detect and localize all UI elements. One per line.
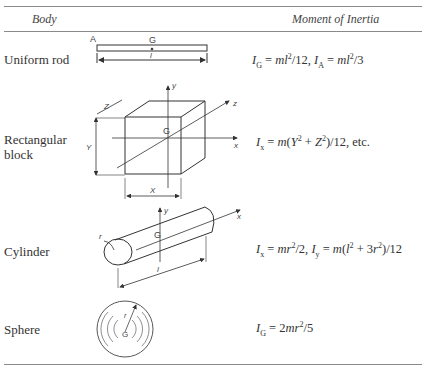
block-dim-x: X	[149, 186, 156, 195]
rod-diagram	[97, 45, 207, 63]
cylinder-label-g: G	[154, 230, 161, 240]
sphere-diagram	[97, 301, 153, 357]
block-dim-z: Z	[103, 102, 110, 111]
cylinder-label-l: l	[157, 265, 159, 274]
sphere-label-g: G	[122, 330, 128, 339]
block-diagram	[96, 86, 237, 199]
cylinder-label-r: r	[99, 232, 102, 241]
cylinder-diagram	[104, 207, 240, 288]
cylinder-axis-x: x	[236, 212, 242, 221]
block-axis-x: x	[233, 141, 239, 150]
diagrams: A G l G y z x Z Y X G y x r l	[0, 0, 426, 373]
sphere-label-r: r	[124, 312, 127, 319]
block-axis-y: y	[171, 81, 177, 90]
block-label-g: G	[163, 126, 170, 136]
block-axis-z: z	[232, 99, 237, 108]
cylinder-axis-y: y	[163, 206, 169, 215]
rod-label-g: G	[149, 35, 156, 45]
rod-label-a: A	[90, 34, 96, 44]
rod-label-l: l	[150, 51, 152, 60]
block-dim-y: Y	[86, 143, 92, 152]
